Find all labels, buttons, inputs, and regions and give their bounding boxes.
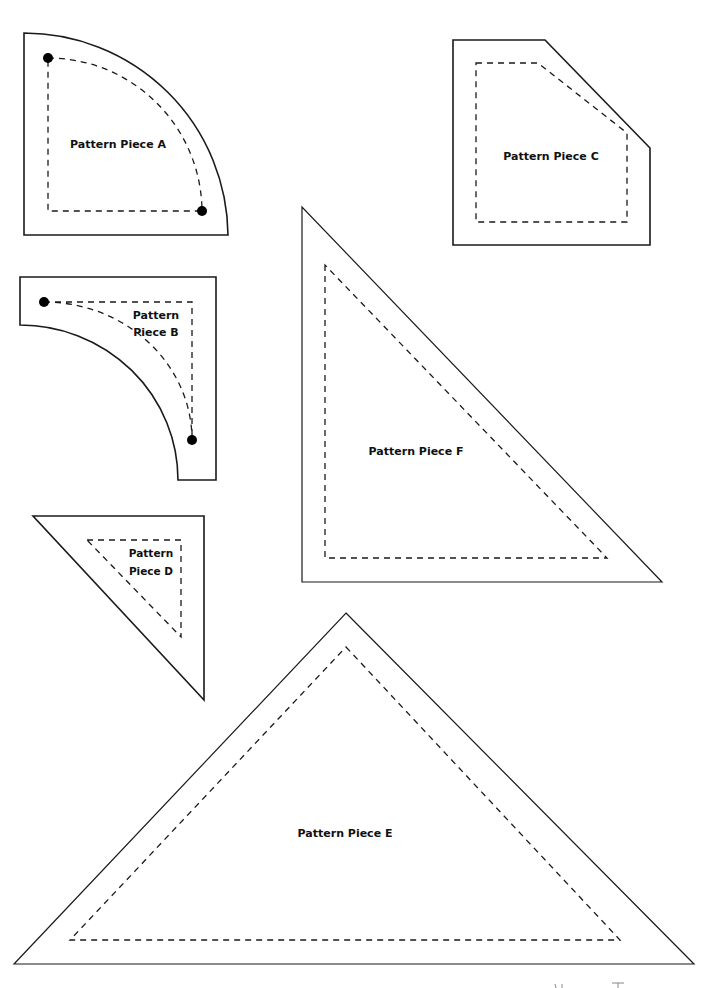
pattern-piece-f: Pattern Piece F bbox=[302, 207, 662, 582]
piece-d-label-line1: Pattern bbox=[129, 547, 173, 559]
pattern-sheet: Pattern Piece A Pattern Piece C Pattern … bbox=[0, 0, 709, 988]
pattern-piece-c: Pattern Piece C bbox=[453, 40, 650, 245]
piece-e-label: Pattern Piece E bbox=[298, 827, 393, 840]
piece-d-cut-line bbox=[33, 516, 204, 700]
piece-f-label: Pattern Piece F bbox=[369, 445, 464, 458]
piece-a-cut-line bbox=[24, 33, 228, 235]
piece-b-label-line2: Piece B bbox=[133, 326, 179, 339]
piece-a-label: Pattern Piece A bbox=[70, 138, 166, 151]
piece-b-cut-line bbox=[20, 277, 216, 480]
scan-artifact-marks bbox=[555, 983, 624, 988]
piece-c-cut-line bbox=[453, 40, 650, 245]
piece-a-match-dot-icon bbox=[197, 206, 207, 216]
piece-f-cut-line bbox=[302, 207, 662, 582]
piece-b-match-dot-icon bbox=[187, 435, 197, 445]
pattern-piece-e: Pattern Piece E bbox=[14, 613, 694, 964]
pattern-piece-b: Pattern Piece B bbox=[20, 277, 216, 480]
piece-c-label: Pattern Piece C bbox=[503, 150, 598, 163]
pattern-piece-d: Pattern Piece D bbox=[33, 516, 204, 700]
piece-e-cut-line bbox=[14, 613, 694, 964]
piece-b-label-line1: Pattern bbox=[133, 309, 179, 322]
piece-b-match-dot-icon bbox=[39, 297, 49, 307]
piece-d-label-line2: Piece D bbox=[129, 565, 173, 577]
piece-a-match-dot-icon bbox=[43, 53, 53, 63]
pattern-piece-a: Pattern Piece A bbox=[24, 33, 228, 235]
